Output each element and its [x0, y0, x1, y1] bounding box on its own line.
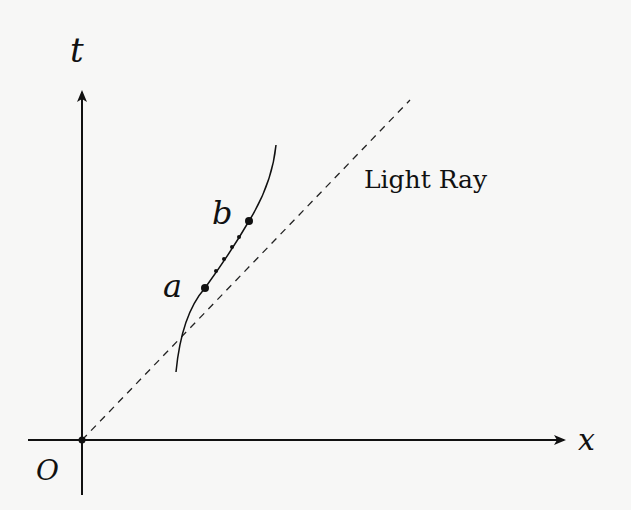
point-a-label: a [163, 267, 182, 305]
event-point-a [201, 284, 209, 292]
origin-dot [79, 437, 86, 444]
event-point-b [245, 217, 253, 225]
point-b-label: b [212, 194, 232, 232]
intermediate-dot [237, 235, 241, 239]
light-ray-line [82, 100, 410, 440]
spacetime-diagram: t x O Light Ray a b [0, 0, 631, 510]
intermediate-dot [230, 245, 234, 249]
origin-label: O [36, 454, 59, 487]
intermediate-dot [214, 269, 218, 273]
x-axis-label: x [578, 422, 595, 457]
t-axis-label: t [70, 30, 84, 70]
light-ray-label: Light Ray [364, 165, 488, 194]
intermediate-dot [222, 257, 226, 261]
worldline-curve [176, 145, 276, 372]
